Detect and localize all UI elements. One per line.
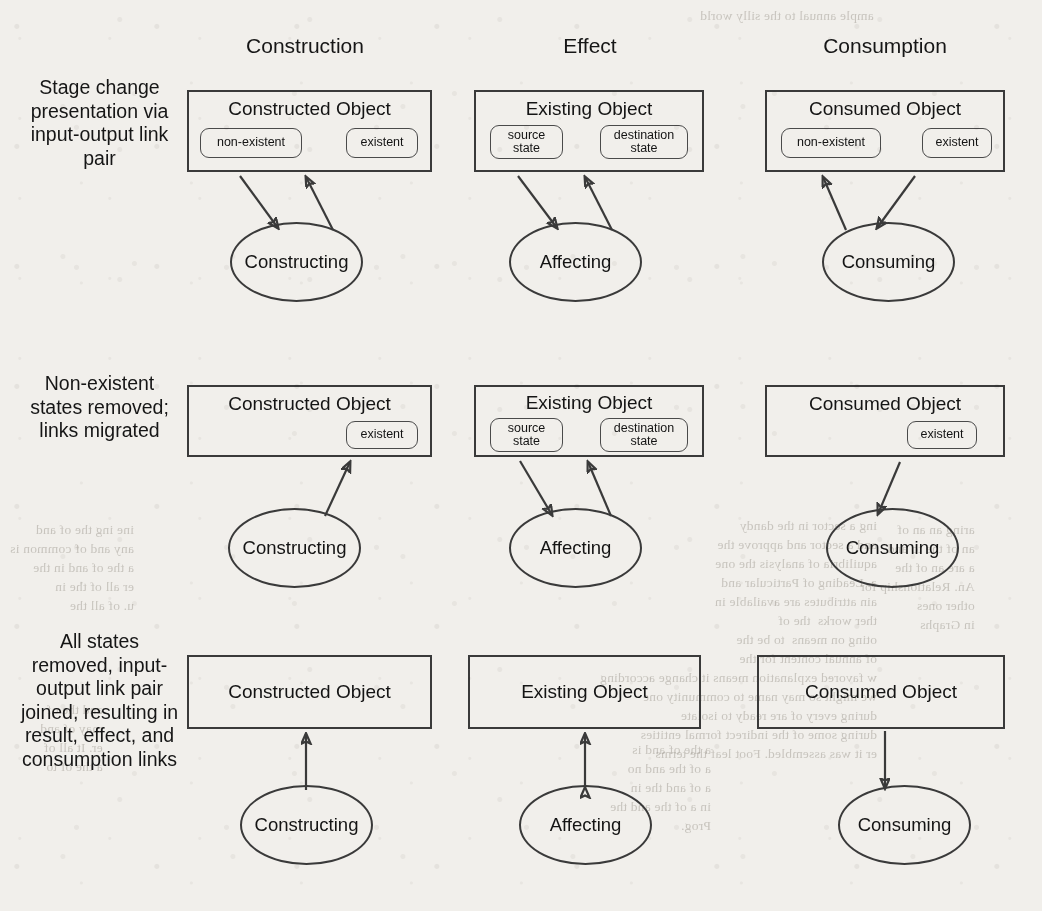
row-label-all-states-removed: All states removed, input-output link pa… — [18, 630, 181, 771]
object-title: Existing Object — [470, 681, 699, 703]
object-box-constructed-object-r3[interactable]: Constructed Object — [187, 655, 432, 729]
object-title: Constructed Object — [189, 393, 430, 415]
object-title: Existing Object — [476, 392, 702, 414]
process-ellipse-consuming-r1[interactable]: Consuming — [822, 222, 955, 302]
row-label-non-existent-removed: Non-existent states removed; links migra… — [22, 372, 177, 443]
object-title: Consumed Object — [767, 98, 1003, 120]
state-pill-non-existent[interactable]: non-existent — [200, 128, 302, 158]
link-input-existent-to-consuming-r1 — [877, 176, 915, 228]
process-ellipse-affecting-r3[interactable]: Affecting — [519, 785, 652, 865]
column-header-consumption: Consumption — [770, 34, 1000, 58]
object-box-existing-object-r1[interactable]: Existing Object source state destination… — [474, 90, 704, 172]
link-input-source-state-to-affecting-r1 — [518, 176, 557, 228]
figure-canvas: Construction Effect Consumption Stage ch… — [0, 0, 1042, 911]
object-box-constructed-object-r1[interactable]: Constructed Object non-existent existent — [187, 90, 432, 172]
object-box-existing-object-r2[interactable]: Existing Object source state destination… — [474, 385, 704, 457]
column-header-construction: Construction — [200, 34, 410, 58]
state-pill-existent[interactable]: existent — [922, 128, 992, 158]
object-title: Constructed Object — [189, 98, 430, 120]
process-ellipse-affecting-r2[interactable]: Affecting — [509, 508, 642, 588]
state-pill-destination-state[interactable]: destination state — [600, 418, 688, 452]
state-pill-existent[interactable]: existent — [346, 128, 418, 158]
state-pill-existent[interactable]: existent — [907, 421, 977, 449]
state-pill-source-state[interactable]: source state — [490, 125, 563, 159]
link-result-constructing-to-existent-r2 — [325, 462, 350, 516]
process-ellipse-consuming-r2[interactable]: Consuming — [826, 508, 959, 588]
process-ellipse-affecting-r1[interactable]: Affecting — [509, 222, 642, 302]
state-pill-source-state[interactable]: source state — [490, 418, 563, 452]
object-box-consumed-object-r2[interactable]: Consumed Object existent — [765, 385, 1005, 457]
object-title: Existing Object — [476, 98, 702, 120]
link-input-source-state-to-affecting-r2 — [520, 461, 552, 515]
row-label-stage-change-presentation: Stage change presentation via input-outp… — [22, 76, 177, 170]
state-pill-existent[interactable]: existent — [346, 421, 418, 449]
link-output-affecting-to-destination-state-r2 — [588, 462, 611, 516]
link-consumption-existent-to-consuming-r2 — [878, 462, 900, 514]
object-box-existing-object-r3[interactable]: Existing Object — [468, 655, 701, 729]
object-box-constructed-object-r2[interactable]: Constructed Object existent — [187, 385, 432, 457]
object-title: Constructed Object — [189, 681, 430, 703]
process-ellipse-constructing-r1[interactable]: Constructing — [230, 222, 363, 302]
column-header-effect: Effect — [495, 34, 685, 58]
object-box-consumed-object-r1[interactable]: Consumed Object non-existent existent — [765, 90, 1005, 172]
process-ellipse-constructing-r2[interactable]: Constructing — [228, 508, 361, 588]
object-title: Consumed Object — [767, 393, 1003, 415]
link-input-non-existent-to-constructing-r1 — [240, 176, 278, 228]
object-box-consumed-object-r3[interactable]: Consumed Object — [757, 655, 1005, 729]
process-ellipse-constructing-r3[interactable]: Constructing — [240, 785, 373, 865]
state-pill-non-existent[interactable]: non-existent — [781, 128, 881, 158]
process-ellipse-consuming-r3[interactable]: Consuming — [838, 785, 971, 865]
link-output-consuming-to-non-existent-r1 — [823, 177, 846, 230]
state-pill-destination-state[interactable]: destination state — [600, 125, 688, 159]
object-title: Consumed Object — [759, 681, 1003, 703]
